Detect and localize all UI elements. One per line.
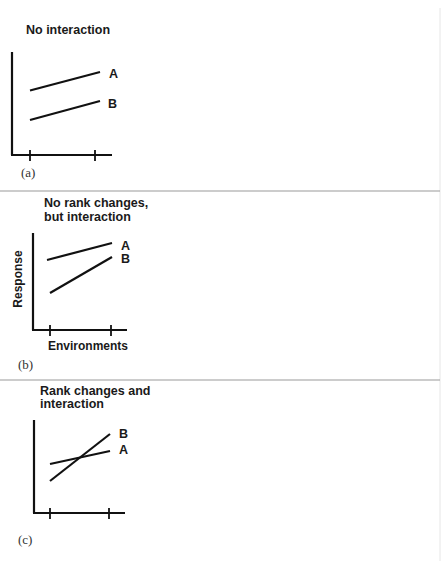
series-label-a: A: [121, 239, 130, 253]
panel-b-label: (b): [18, 357, 33, 372]
panel-b-plot: A B Response Environments: [11, 233, 130, 353]
series-label-a: A: [119, 443, 128, 457]
panel-c: Rank changes and interaction B A (c): [18, 384, 150, 547]
panel-a: No interaction A B (a): [11, 23, 118, 180]
series-label-a: A: [109, 67, 118, 81]
panel-c-plot: B A: [33, 420, 128, 519]
panel-b: No rank changes, but interaction A B Res…: [11, 196, 148, 372]
series-line-a: [30, 72, 100, 91]
series-line-b: [30, 101, 100, 120]
interaction-types-figure: No interaction A B (a) No rank changes, …: [0, 0, 446, 561]
series-label-b: B: [119, 427, 128, 441]
panel-a-label: (a): [21, 165, 35, 180]
y-axis-label: Response: [11, 250, 25, 308]
panel-b-title-line-2: but interaction: [44, 210, 131, 224]
panel-c-label: (c): [18, 532, 32, 547]
series-label-b: B: [108, 97, 117, 111]
series-label-b: B: [121, 252, 130, 266]
series-line-b: [50, 434, 110, 481]
panel-a-title: No interaction: [26, 23, 110, 37]
x-axis-label: Environments: [48, 339, 128, 353]
panel-c-title-line-1: Rank changes and: [40, 384, 150, 398]
panel-b-title-line-1: No rank changes,: [44, 196, 148, 210]
series-line-a: [47, 243, 112, 260]
panel-c-title-line-2: interaction: [40, 397, 104, 411]
panel-a-plot: A B: [11, 52, 118, 161]
series-line-b: [50, 257, 112, 293]
